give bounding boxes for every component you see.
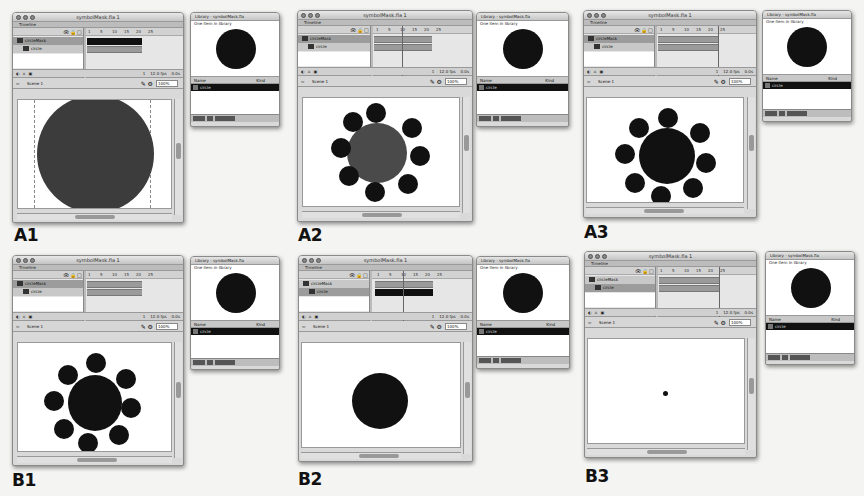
layer-buttons[interactable]: ◐ ⌂ ▣ bbox=[302, 313, 319, 321]
zoom-button[interactable] bbox=[601, 13, 606, 18]
frame-span[interactable] bbox=[658, 44, 718, 51]
name-column[interactable]: Name bbox=[480, 322, 492, 327]
title-bar[interactable]: symbolMask.fla 1 bbox=[584, 11, 756, 20]
horizontal-scrollbar[interactable] bbox=[17, 456, 172, 463]
scroll-thumb[interactable] bbox=[647, 450, 687, 454]
frame-span[interactable] bbox=[659, 285, 719, 292]
satellite-circle[interactable] bbox=[658, 108, 678, 128]
new-symbol-button[interactable] bbox=[479, 116, 491, 121]
back-arrow-icon[interactable]: ⇦ bbox=[16, 321, 19, 332]
properties-button[interactable] bbox=[790, 355, 810, 360]
layer-circle[interactable]: circle bbox=[13, 45, 83, 53]
stage[interactable] bbox=[301, 342, 461, 448]
timeline[interactable]: 👁🔒□ 1510152025 circleMask circle ◐ ⌂ ▣ 1… bbox=[585, 267, 756, 317]
close-button[interactable] bbox=[16, 15, 21, 20]
edit-symbol-icons[interactable]: ✎ ⚙ bbox=[430, 76, 442, 87]
zoom-button[interactable] bbox=[30, 258, 35, 263]
window-controls[interactable] bbox=[588, 254, 607, 259]
satellite-circle[interactable] bbox=[410, 146, 430, 166]
library-title[interactable]: Library - symbolMask.fla bbox=[191, 13, 279, 21]
horizontal-scrollbar[interactable] bbox=[586, 207, 744, 214]
name-column[interactable]: Name bbox=[766, 76, 778, 81]
new-folder-button[interactable] bbox=[207, 116, 213, 121]
eye-lock-outline-icons[interactable]: 👁🔒□ bbox=[349, 272, 369, 278]
horizontal-scrollbar[interactable] bbox=[301, 452, 461, 459]
satellite-circle[interactable] bbox=[109, 425, 129, 445]
title-bar[interactable]: symbolMask.fla 1 bbox=[13, 256, 183, 265]
layer-circle[interactable]: circle bbox=[298, 43, 370, 51]
kind-column[interactable]: Kind bbox=[256, 321, 265, 328]
new-symbol-button[interactable] bbox=[765, 111, 777, 116]
layer-buttons[interactable]: ◐ ⌂ ▣ bbox=[16, 313, 33, 321]
zoom-field[interactable]: 100% bbox=[156, 323, 178, 330]
new-folder-button[interactable] bbox=[782, 355, 788, 360]
layer-buttons[interactable]: ◐ ⌂ ▣ bbox=[301, 68, 318, 76]
timeline[interactable]: 👁🔒□ 1510152025 circleMask circle ◐ ⌂ ▣ 1… bbox=[13, 28, 183, 78]
layer-circlemask[interactable]: circleMask bbox=[585, 276, 655, 284]
scroll-thumb[interactable] bbox=[359, 454, 399, 458]
satellite-circle[interactable] bbox=[44, 391, 64, 411]
frame-span[interactable] bbox=[87, 281, 142, 288]
satellite-circle[interactable] bbox=[366, 103, 386, 123]
edit-symbol-icons[interactable]: ✎ ⚙ bbox=[430, 321, 442, 332]
title-bar[interactable]: symbolMask.fla 1 bbox=[298, 11, 472, 20]
name-column[interactable]: Name bbox=[480, 78, 492, 83]
properties-button[interactable] bbox=[215, 360, 235, 365]
frame-ruler[interactable]: 👁🔒□ 1510152025 bbox=[585, 267, 756, 275]
library-item[interactable]: circle bbox=[191, 84, 279, 91]
name-column[interactable]: Name bbox=[194, 322, 206, 327]
satellite-circle[interactable] bbox=[696, 153, 716, 173]
satellite-circle[interactable] bbox=[651, 186, 671, 203]
new-symbol-button[interactable] bbox=[479, 358, 491, 363]
minimize-button[interactable] bbox=[23, 258, 28, 263]
stage[interactable] bbox=[17, 99, 172, 209]
scroll-thumb[interactable] bbox=[464, 135, 469, 151]
name-column[interactable]: Name bbox=[194, 78, 206, 83]
frame-span[interactable] bbox=[375, 289, 433, 296]
stage[interactable] bbox=[586, 97, 744, 203]
eye-lock-outline-icons[interactable]: 👁🔒□ bbox=[63, 272, 83, 278]
scene-breadcrumb[interactable]: Scene 1 bbox=[312, 76, 328, 87]
scroll-thumb[interactable] bbox=[644, 209, 684, 213]
layer-circle[interactable]: circle bbox=[585, 284, 655, 292]
eye-lock-outline-icons[interactable]: 👁🔒□ bbox=[350, 27, 370, 33]
name-column[interactable]: Name bbox=[769, 317, 781, 322]
big-gray-circle[interactable] bbox=[37, 99, 154, 209]
layer-circlemask[interactable]: circleMask bbox=[584, 35, 654, 43]
properties-button[interactable] bbox=[215, 116, 235, 121]
timeline[interactable]: 👁🔒□ 1510152025 circleMask circle ◐ ⌂ ▣ 1… bbox=[584, 26, 756, 76]
satellite-circle[interactable] bbox=[78, 433, 98, 452]
satellite-circle[interactable] bbox=[54, 419, 74, 439]
tiny-dot[interactable] bbox=[663, 391, 668, 396]
satellite-circle[interactable] bbox=[629, 118, 649, 138]
scene-breadcrumb[interactable]: Scene 1 bbox=[27, 321, 43, 332]
zoom-field[interactable]: 100% bbox=[156, 80, 178, 87]
zoom-button[interactable] bbox=[315, 13, 320, 18]
scroll-thumb[interactable] bbox=[176, 382, 181, 398]
scene-breadcrumb[interactable]: Scene 1 bbox=[598, 76, 614, 87]
timeline[interactable]: 👁🔒□ 1510152025 circleMask circle ◐ ⌂ ▣ 1… bbox=[299, 271, 472, 321]
satellite-circle[interactable] bbox=[331, 138, 351, 158]
satellite-circle[interactable] bbox=[398, 174, 418, 194]
new-symbol-button[interactable] bbox=[193, 360, 205, 365]
kind-column[interactable]: Kind bbox=[828, 75, 837, 82]
satellite-circle[interactable] bbox=[58, 365, 78, 385]
back-arrow-icon[interactable]: ⇦ bbox=[16, 78, 19, 89]
layer-circlemask[interactable]: circleMask bbox=[299, 280, 369, 288]
scroll-thumb[interactable] bbox=[749, 378, 754, 394]
new-folder-button[interactable] bbox=[493, 358, 499, 363]
satellite-circle[interactable] bbox=[116, 369, 136, 389]
layer-circle[interactable]: circle bbox=[584, 43, 654, 51]
zoom-field[interactable]: 100% bbox=[445, 323, 467, 330]
satellite-circle[interactable] bbox=[86, 353, 106, 373]
satellite-circle[interactable] bbox=[402, 118, 422, 138]
eye-lock-outline-icons[interactable]: 👁🔒□ bbox=[634, 27, 654, 33]
satellite-circle[interactable] bbox=[683, 178, 703, 198]
library-title[interactable]: Library - symbolMask.fla bbox=[766, 252, 854, 260]
vertical-scrollbar[interactable] bbox=[747, 97, 755, 209]
minimize-button[interactable] bbox=[23, 15, 28, 20]
stage[interactable] bbox=[587, 338, 745, 444]
frame-span[interactable] bbox=[659, 277, 719, 284]
zoom-button[interactable] bbox=[316, 258, 321, 263]
new-folder-button[interactable] bbox=[493, 116, 499, 121]
